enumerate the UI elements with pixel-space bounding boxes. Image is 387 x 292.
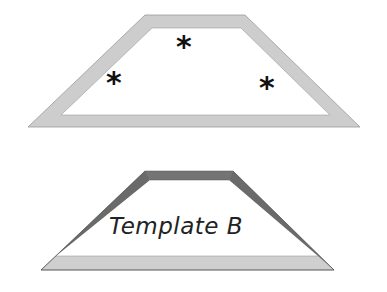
bottom-band xyxy=(41,256,334,270)
asterisk-marker-left: * xyxy=(106,68,122,98)
asterisk-marker-right: * xyxy=(259,73,275,103)
top-band xyxy=(145,171,233,180)
top-trapezoid xyxy=(28,15,360,127)
template-b-label: Template B xyxy=(109,213,243,239)
diagram-canvas xyxy=(0,0,387,292)
asterisk-marker-top: * xyxy=(176,32,192,62)
right-band xyxy=(229,171,334,270)
